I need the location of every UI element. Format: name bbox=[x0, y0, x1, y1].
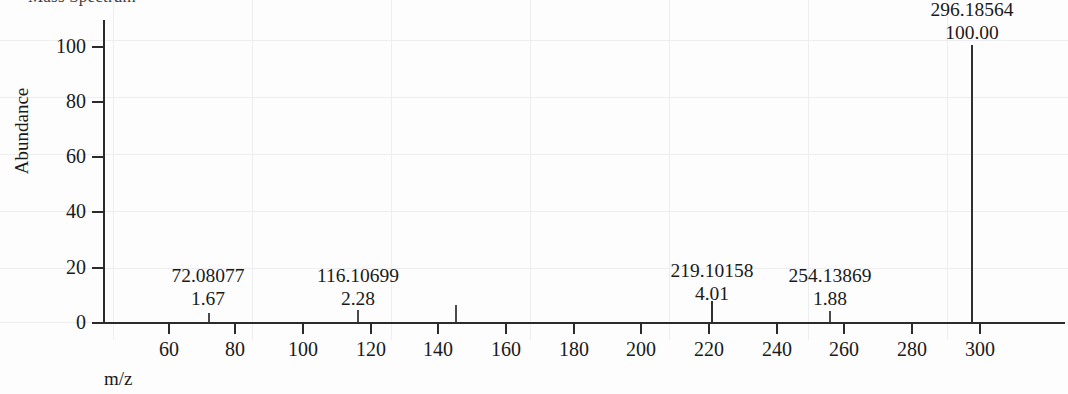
y-tick-mark-100 bbox=[92, 46, 104, 48]
mass-spectrum-figure: Mass Spectrum Abundance 100 80 60 40 20 … bbox=[0, 0, 1068, 394]
peak-label-116-mz: 116.10699 bbox=[282, 264, 434, 287]
x-tick-label-60: 60 bbox=[139, 338, 199, 360]
x-tick-label-80: 80 bbox=[205, 338, 265, 360]
peak-label-296-mz: 296.18564 bbox=[896, 0, 1048, 21]
x-tick-label-140: 140 bbox=[408, 338, 468, 360]
y-tick-label-0: 0 bbox=[34, 312, 86, 332]
y-tick-label-100: 100 bbox=[34, 36, 86, 56]
peak-145 bbox=[455, 305, 457, 322]
x-tick-mark-160 bbox=[505, 324, 507, 334]
x-tick-mark-120 bbox=[370, 324, 372, 334]
x-tick-mark-200 bbox=[640, 324, 642, 334]
peak-label-116: 116.10699 2.28 bbox=[282, 264, 434, 310]
y-tick-mark-40 bbox=[92, 211, 104, 213]
y-tick-label-40: 40 bbox=[34, 201, 86, 221]
y-axis-line bbox=[103, 20, 105, 324]
x-tick-mark-240 bbox=[776, 324, 778, 334]
peak-296 bbox=[971, 45, 973, 322]
x-tick-label-180: 180 bbox=[544, 338, 604, 360]
x-tick-mark-100 bbox=[302, 324, 304, 334]
x-tick-label-100: 100 bbox=[273, 338, 333, 360]
x-tick-label-120: 120 bbox=[341, 338, 401, 360]
peak-label-72: 72.08077 1.67 bbox=[133, 264, 283, 310]
x-tick-label-200: 200 bbox=[611, 338, 671, 360]
x-tick-label-220: 220 bbox=[679, 338, 739, 360]
x-axis-line bbox=[103, 322, 1065, 324]
peak-254 bbox=[829, 311, 831, 322]
peak-label-296-abundance: 100.00 bbox=[896, 21, 1048, 44]
x-tick-mark-300 bbox=[979, 324, 981, 334]
x-tick-label-300: 300 bbox=[950, 338, 1010, 360]
y-tick-label-60: 60 bbox=[34, 146, 86, 166]
peak-label-296: 296.18564 100.00 bbox=[896, 0, 1048, 44]
y-tick-label-20: 20 bbox=[34, 257, 86, 277]
x-tick-label-260: 260 bbox=[814, 338, 874, 360]
x-axis-title: m/z bbox=[104, 368, 133, 390]
x-tick-mark-280 bbox=[911, 324, 913, 334]
y-axis-title: Abundance bbox=[11, 71, 33, 191]
peak-label-254-abundance: 1.88 bbox=[754, 287, 906, 310]
x-tick-mark-180 bbox=[573, 324, 575, 334]
x-tick-mark-220 bbox=[708, 324, 710, 334]
x-tick-mark-80 bbox=[234, 324, 236, 334]
x-tick-label-240: 240 bbox=[747, 338, 807, 360]
peak-116 bbox=[357, 310, 359, 322]
x-tick-label-280: 280 bbox=[882, 338, 942, 360]
figure-title-clipped: Mass Spectrum bbox=[28, 0, 136, 7]
y-tick-mark-60 bbox=[92, 156, 104, 158]
peak-label-72-abundance: 1.67 bbox=[133, 287, 283, 310]
background-grid bbox=[0, 0, 1068, 394]
peak-label-72-mz: 72.08077 bbox=[133, 264, 283, 287]
y-tick-label-80: 80 bbox=[34, 91, 86, 111]
peak-label-254: 254.13869 1.88 bbox=[754, 264, 906, 310]
x-tick-mark-60 bbox=[168, 324, 170, 334]
peak-label-254-mz: 254.13869 bbox=[754, 264, 906, 287]
peak-72 bbox=[208, 313, 210, 322]
y-tick-mark-80 bbox=[92, 101, 104, 103]
peak-label-116-abundance: 2.28 bbox=[282, 287, 434, 310]
x-tick-mark-140 bbox=[437, 324, 439, 334]
x-tick-mark-260 bbox=[843, 324, 845, 334]
x-tick-label-160: 160 bbox=[476, 338, 536, 360]
y-tick-mark-20 bbox=[92, 267, 104, 269]
